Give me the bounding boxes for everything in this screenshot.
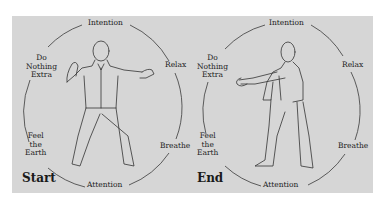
label-line: Earth (197, 149, 218, 158)
label-breathe: Breathe (338, 142, 368, 151)
circle-cycle-figure-start (12, 16, 192, 193)
label-do-nothing-extra: Do Nothing Extra (26, 54, 57, 80)
label-feel-the-earth: Feel the Earth (25, 132, 46, 158)
label-intention: Intention (269, 19, 304, 28)
diagram-title-start: Start (22, 171, 56, 185)
label-relax: Relax (342, 61, 363, 70)
label-attention: Attention (87, 181, 122, 190)
end-diagram: Intention Do Nothing Extra Relax Feel th… (193, 16, 373, 193)
label-intention: Intention (88, 19, 123, 28)
diagram-title-end: End (197, 171, 223, 185)
label-relax: Relax (165, 61, 186, 70)
label-breathe: Breathe (160, 142, 190, 151)
diagram-panel: Intention Do Nothing Extra Relax Feel th… (12, 16, 373, 193)
label-line: Earth (25, 149, 46, 158)
label-line: Extra (197, 71, 228, 80)
label-line: Extra (26, 71, 57, 80)
start-diagram: Intention Do Nothing Extra Relax Feel th… (12, 16, 192, 193)
label-feel-the-earth: Feel the Earth (197, 132, 218, 158)
label-attention: Attention (263, 181, 298, 190)
label-do-nothing-extra: Do Nothing Extra (197, 54, 228, 80)
circle-cycle-figure-end (193, 16, 373, 193)
